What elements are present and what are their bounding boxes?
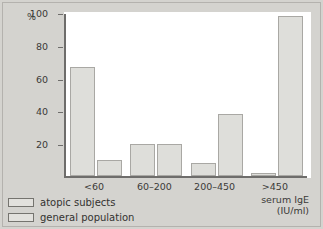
plot-area xyxy=(64,14,307,178)
x-axis-title: serum IgE (IU/ml) xyxy=(261,194,309,216)
legend-swatch-icon xyxy=(8,213,34,222)
legend-item-general-population: general population xyxy=(8,211,134,224)
bar-atopic-subjects-2 xyxy=(191,163,216,176)
y-axis-tick-mark xyxy=(58,145,63,146)
y-axis-tick-label: 80 xyxy=(36,42,48,51)
x-axis-title-line2: (IU/ml) xyxy=(261,205,309,216)
bar-general-population-2 xyxy=(218,114,243,176)
bar-general-population-1 xyxy=(157,144,182,176)
y-axis-tick-label: 60 xyxy=(36,75,48,84)
legend-label: atopic subjects xyxy=(40,197,115,208)
bar-atopic-subjects-0 xyxy=(70,67,95,176)
legend-label: general population xyxy=(40,212,134,223)
x-axis-tick-label: >450 xyxy=(235,181,315,192)
chart-legend: atopic subjects general population xyxy=(8,196,134,226)
y-axis: 20406080100 xyxy=(0,0,62,190)
bar-general-population-3 xyxy=(278,16,303,176)
bar-atopic-subjects-3 xyxy=(251,173,276,176)
y-axis-tick-label: 100 xyxy=(30,9,48,18)
legend-item-atopic-subjects: atopic subjects xyxy=(8,196,134,209)
y-axis-tick-mark xyxy=(58,14,63,15)
bar-atopic-subjects-1 xyxy=(130,144,155,176)
x-axis-title-line1: serum IgE xyxy=(261,194,309,205)
legend-swatch-icon xyxy=(8,198,34,207)
bar-general-population-0 xyxy=(97,160,122,176)
y-axis-tick-label: 40 xyxy=(36,107,48,116)
y-axis-tick-label: 20 xyxy=(36,140,48,149)
y-axis-tick-mark xyxy=(58,47,63,48)
chart-figure: % 20406080100 <6060–200200–450>450 serum… xyxy=(0,0,323,229)
y-axis-tick-mark xyxy=(58,112,63,113)
y-axis-tick-mark xyxy=(58,80,63,81)
bars-layer xyxy=(66,14,307,176)
